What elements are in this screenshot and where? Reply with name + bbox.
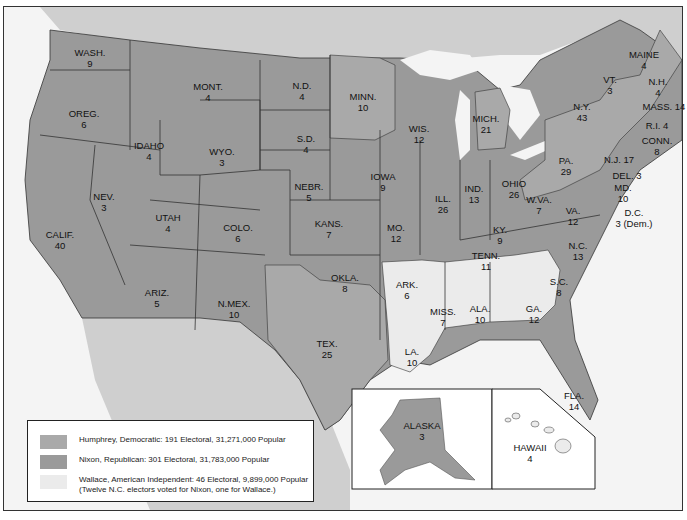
legend-item-nixon: Nixon, Republican: 301 Electoral, 31,783…: [40, 455, 269, 469]
state-label: MAINE4: [629, 49, 659, 71]
state-label: W.VA.7: [526, 194, 552, 216]
state-label: IOWA9: [371, 171, 396, 193]
state-callout-label: CONN.8: [642, 135, 673, 157]
state-label: N.Y.43: [573, 101, 590, 123]
state-callout-label: N.H.4: [649, 76, 668, 98]
state-label: WIS.12: [409, 123, 430, 145]
state-label: OREG.6: [69, 108, 100, 130]
state-label: LA.10: [405, 346, 419, 368]
state-label: TENN.11: [472, 250, 501, 272]
state-label: VA.12: [566, 205, 581, 227]
state-label: PA.29: [559, 155, 574, 177]
state-label: MONT.4: [193, 81, 223, 103]
state-label: N.C.13: [569, 240, 588, 262]
state-label: NEBR.5: [294, 181, 323, 203]
state-label: N.MEX.10: [218, 298, 251, 320]
state-label: KY.9: [493, 224, 507, 246]
state-callout-label: D.C.3 (Dem.): [616, 207, 653, 229]
state-callout-label: DEL. 3: [612, 170, 641, 181]
state-label: ARK.6: [396, 279, 418, 301]
state-label: WYO.3: [209, 146, 234, 168]
state-label: WASH.9: [75, 47, 106, 69]
state-label: OHIO26: [502, 178, 526, 200]
state-label: MICH.21: [473, 113, 500, 135]
nixon-swatch: [40, 455, 67, 469]
state-label: NEV.3: [93, 191, 114, 213]
state-label: OKLA.8: [331, 272, 359, 294]
state-label: VT.3: [603, 74, 617, 96]
state-label: TEX.25: [316, 338, 337, 360]
state-callout-label: MASS. 14: [643, 101, 686, 112]
state-callout-label: R.I. 4: [646, 120, 669, 131]
alaska-label: ALASKA 3: [404, 420, 441, 442]
state-label: MINN.10: [350, 91, 377, 113]
legend-item-humphrey: Humphrey, Democratic: 191 Electoral, 31,…: [40, 435, 286, 449]
state-label: IDAHO4: [134, 140, 164, 162]
legend-item-wallace: Wallace, American Independent: 46 Electo…: [40, 475, 308, 495]
state-label: ARIZ.5: [145, 287, 169, 309]
state-label: CALIF.40: [46, 229, 75, 251]
state-label: GA.12: [526, 303, 542, 325]
legend: Humphrey, Democratic: 191 Electoral, 31,…: [27, 420, 314, 502]
state-label: FLA.14: [564, 390, 584, 412]
state-label: ALA.10: [470, 303, 491, 325]
state-label: KANS.7: [315, 218, 344, 240]
state-label: UTAH4: [155, 212, 180, 234]
state-label: N.D.4: [293, 80, 312, 102]
state-label: IND.13: [465, 183, 484, 205]
state-label: S.D.4: [297, 133, 315, 155]
state-callout-label: N.J. 17: [604, 154, 634, 165]
state-callout-label: MD.10: [614, 182, 631, 204]
state-label: COLO.6: [223, 222, 253, 244]
wallace-swatch: [40, 475, 67, 489]
state-label: MO.12: [387, 222, 405, 244]
state-label: MISS.7: [430, 306, 456, 328]
state-label: ILL.26: [435, 193, 451, 215]
humphrey-swatch: [40, 435, 67, 449]
state-label: S.C.8: [550, 276, 568, 298]
hawaii-label: HAWAII 4: [513, 442, 546, 464]
